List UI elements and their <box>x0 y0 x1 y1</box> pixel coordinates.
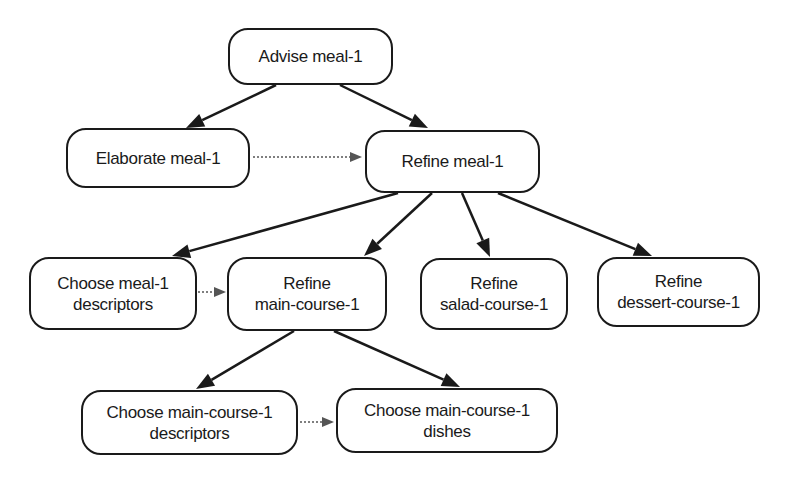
node-refine-main-course: Refinemain-course-1 <box>227 257 387 331</box>
edge-refine-main-course-to-choose-main-course-descriptors <box>211 331 294 380</box>
node-label-line: Choose meal-1 <box>57 273 168 294</box>
arrowhead-icon <box>196 374 215 389</box>
node-label-line: Choose main-course-1 <box>107 402 273 423</box>
node-refine-dessert-course: Refinedessert-course-1 <box>597 257 760 327</box>
edge-advise-meal-to-elaborate-meal <box>202 85 276 120</box>
node-label-line: Refine <box>655 271 702 292</box>
node-label-line: main-course-1 <box>255 294 360 315</box>
arrowhead-icon <box>476 238 490 257</box>
edge-refine-meal-to-refine-salad-course <box>462 193 483 241</box>
node-label-line: dishes <box>423 421 470 442</box>
node-advise-meal: Advise meal-1 <box>228 28 393 85</box>
edge-refine-meal-to-choose-meal-descriptors <box>189 193 398 251</box>
node-label-line: Choose main-course-1 <box>364 400 530 421</box>
arrowhead-icon <box>350 152 362 162</box>
edge-refine-main-course-to-choose-main-course-dishes <box>334 331 444 380</box>
node-elaborate-meal: Elaborate meal-1 <box>66 128 250 188</box>
arrowhead-icon <box>322 417 334 427</box>
arrowhead-icon <box>409 114 428 128</box>
arrowhead-icon <box>633 243 652 256</box>
node-refine-meal: Refine meal-1 <box>365 130 540 193</box>
edge-advise-meal-to-refine-meal <box>340 85 412 120</box>
arrowhead-icon <box>441 373 460 387</box>
edge-refine-meal-to-refine-dessert-course <box>498 193 635 249</box>
node-label-line: Advise meal-1 <box>259 46 363 67</box>
arrowhead-icon <box>214 287 226 297</box>
arrowhead-icon <box>172 244 191 257</box>
node-label-line: descriptors <box>73 294 153 315</box>
node-label-line: Elaborate meal-1 <box>96 148 221 169</box>
node-label-line: salad-course-1 <box>440 294 548 315</box>
node-choose-main-course-dishes: Choose main-course-1dishes <box>336 388 558 453</box>
node-label-line: descriptors <box>150 423 230 444</box>
node-refine-salad-course: Refinesalad-course-1 <box>420 258 568 330</box>
node-choose-meal-descriptors: Choose meal-1descriptors <box>29 257 197 330</box>
node-label-line: Refine <box>470 273 517 294</box>
node-label-line: Refine <box>283 273 330 294</box>
node-label-line: dessert-course-1 <box>617 292 740 313</box>
arrowhead-icon <box>186 114 205 128</box>
node-label-line: Refine meal-1 <box>402 151 504 172</box>
node-choose-main-course-descriptors: Choose main-course-1descriptors <box>81 390 298 455</box>
diagram-canvas: Advise meal-1Elaborate meal-1Refine meal… <box>0 0 786 484</box>
edge-refine-meal-to-refine-main-course <box>377 193 432 244</box>
